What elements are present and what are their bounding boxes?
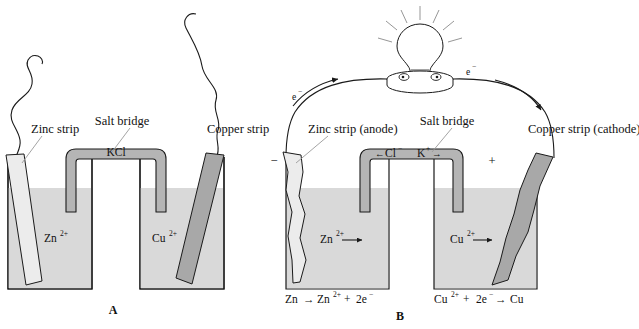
label-copper-strip-panel-a: Copper strip bbox=[207, 122, 269, 136]
leader-zinc-panel-b bbox=[296, 136, 328, 163]
svg-text:2+: 2+ bbox=[336, 229, 344, 238]
svg-text:Zn: Zn bbox=[317, 293, 330, 305]
svg-text:Cu: Cu bbox=[510, 293, 524, 305]
label-zinc-strip-panel-a: Zinc strip bbox=[31, 122, 79, 136]
svg-text:−: − bbox=[489, 290, 493, 299]
svg-text:−: − bbox=[369, 290, 373, 299]
label-salt-bridge-panel-b: Salt bridge bbox=[420, 114, 475, 128]
svg-text:2+: 2+ bbox=[467, 229, 475, 238]
svg-text:2e: 2e bbox=[356, 293, 367, 305]
equation-reduction: Cu 2+ + 2e − → Cu bbox=[434, 290, 524, 305]
wire-right-panel-a bbox=[185, 14, 219, 158]
panel-label-a: A bbox=[109, 303, 118, 317]
svg-text:e: e bbox=[292, 92, 296, 102]
svg-text:2e: 2e bbox=[476, 293, 487, 305]
svg-text:Cu: Cu bbox=[450, 233, 464, 245]
svg-text:2+: 2+ bbox=[169, 229, 177, 238]
label-salt-bridge-panel-a: Salt bridge bbox=[95, 114, 150, 128]
svg-text:→: → bbox=[303, 293, 315, 305]
svg-text:2+: 2+ bbox=[333, 290, 341, 299]
svg-text:→: → bbox=[495, 293, 507, 305]
svg-text:Zn: Zn bbox=[320, 233, 333, 245]
svg-text:Zn: Zn bbox=[44, 232, 57, 244]
leader-zinc-panel-a bbox=[22, 136, 42, 163]
svg-text:Cu: Cu bbox=[152, 232, 166, 244]
bulb-socket-body-icon bbox=[387, 79, 453, 93]
svg-text:+: + bbox=[463, 293, 470, 305]
equation-oxidation: Zn → Zn 2+ + 2e − bbox=[285, 290, 373, 305]
svg-text:+: + bbox=[426, 144, 430, 153]
cathode-sign: + bbox=[488, 154, 495, 168]
svg-text:−: − bbox=[398, 144, 402, 153]
svg-text:K: K bbox=[417, 147, 426, 159]
svg-text:→: → bbox=[432, 149, 442, 159]
terminal-dot-right-icon bbox=[436, 76, 439, 79]
svg-text:−: − bbox=[298, 87, 302, 96]
label-zinc-strip-panel-b: Zinc strip (anode) bbox=[308, 122, 398, 136]
label-copper-strip-panel-b: Copper strip (cathode) bbox=[528, 122, 639, 136]
svg-text:e: e bbox=[466, 67, 470, 77]
svg-text:Cl: Cl bbox=[385, 147, 396, 159]
figure-canvas: Zinc strip Salt bridge Copper strip KCl … bbox=[0, 0, 639, 329]
svg-text:−: − bbox=[472, 62, 476, 71]
bulb-glass-icon bbox=[397, 24, 443, 76]
svg-text:Zn: Zn bbox=[285, 293, 298, 305]
anode-sign: − bbox=[270, 154, 277, 168]
electrochemical-cell-diagram: Zinc strip Salt bridge Copper strip KCl … bbox=[0, 0, 639, 329]
electron-arrow-right bbox=[495, 80, 541, 110]
svg-text:2+: 2+ bbox=[60, 229, 68, 238]
panel-a: Zinc strip Salt bridge Copper strip KCl … bbox=[6, 14, 269, 317]
svg-text:Cu: Cu bbox=[434, 293, 448, 305]
panel-b: e − e − − + Zinc strip (anode) Salt brid… bbox=[270, 6, 639, 323]
electron-label-right: e − bbox=[466, 62, 476, 77]
electron-label-left: e − bbox=[292, 87, 302, 102]
svg-text:2+: 2+ bbox=[451, 290, 459, 299]
svg-text:+: + bbox=[344, 293, 351, 305]
terminal-dot-left-icon bbox=[402, 76, 405, 79]
svg-text:←: ← bbox=[375, 149, 385, 159]
label-salt-bridge-contents-panel-a: KCl bbox=[106, 146, 125, 158]
panel-label-b: B bbox=[396, 309, 404, 323]
